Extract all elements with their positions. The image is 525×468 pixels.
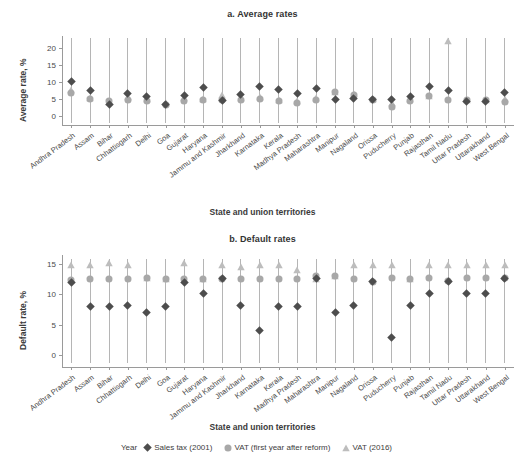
x-axis-spine [62, 367, 514, 368]
panel-b-plot-area: 051015Andhra PradeshAssamBiharChhattisga… [62, 255, 514, 367]
category-stem [90, 38, 91, 123]
data-point-vat_first [86, 275, 94, 283]
data-point-sales_tax [368, 277, 377, 286]
data-point-sales_tax [387, 95, 396, 104]
data-point-sales_tax [500, 274, 509, 283]
legend-item-sales-tax[interactable]: Sales tax (2001) [143, 443, 212, 452]
data-point-vat_first [482, 274, 490, 282]
y-tick-label: 15 [34, 260, 56, 269]
y-tick-label: 0 [34, 350, 56, 359]
x-tick-mark [260, 367, 261, 370]
data-point-sales_tax [274, 85, 283, 94]
x-tick-mark [505, 125, 506, 128]
x-tick-mark [222, 125, 223, 128]
panel-b-y-axis-label: Default rate, % [18, 291, 28, 350]
data-point-vat_first [312, 96, 320, 104]
data-point-sales_tax [349, 94, 358, 103]
x-tick-mark [128, 125, 129, 128]
panel-a-plot-area: 05101520Andhra PradeshAssamBiharChhattis… [62, 36, 514, 125]
data-point-sales_tax [199, 83, 208, 92]
x-tick-mark [373, 125, 374, 128]
data-point-vat_first [406, 275, 414, 283]
data-point-vat_first [124, 275, 132, 283]
y-tick-label: 15 [34, 61, 56, 70]
data-point-sales_tax [406, 92, 415, 101]
x-tick-mark [486, 125, 487, 128]
legend-label-vat-2016: VAT (2016) [352, 443, 392, 452]
legend-item-vat-2016[interactable]: VAT (2016) [342, 443, 392, 452]
x-tick-mark [297, 367, 298, 370]
panel-default-rates: b. Default rates Default rate, % 051015A… [0, 228, 525, 468]
data-point-sales_tax [236, 301, 245, 310]
x-tick-mark [128, 367, 129, 370]
x-tick-mark [354, 367, 355, 370]
x-tick-mark [429, 367, 430, 370]
x-tick-mark [279, 367, 280, 370]
data-point-sales_tax [462, 97, 471, 106]
category-stem [372, 259, 373, 364]
data-point-sales_tax [199, 289, 208, 298]
data-point-sales_tax [255, 82, 264, 91]
x-tick-mark [147, 125, 148, 128]
data-point-vat_first [199, 275, 207, 283]
x-tick-mark [410, 367, 411, 370]
data-point-vat_2016 [369, 261, 377, 269]
x-tick-mark [109, 125, 110, 128]
data-point-sales_tax [142, 308, 151, 317]
category-stem [410, 38, 411, 123]
data-point-sales_tax [142, 92, 151, 101]
data-point-vat_2016 [482, 261, 490, 269]
data-point-sales_tax [368, 95, 377, 104]
category-stem [485, 38, 486, 123]
x-tick-mark [90, 125, 91, 128]
y-tick-mark [59, 355, 62, 356]
data-point-sales_tax [293, 89, 302, 98]
x-tick-mark [166, 125, 167, 128]
data-point-sales_tax [67, 278, 76, 287]
category-stem [222, 38, 223, 123]
x-tick-mark [354, 125, 355, 128]
data-point-vat_first [501, 98, 509, 106]
data-point-vat_2016 [463, 261, 471, 269]
circle-icon [224, 443, 234, 452]
data-point-vat_first [350, 275, 358, 283]
data-point-sales_tax [425, 289, 434, 298]
category-stem [146, 38, 147, 123]
x-tick-mark [316, 125, 317, 128]
y-axis-spine [62, 255, 63, 367]
data-point-vat_2016 [501, 261, 509, 269]
data-point-vat_2016 [350, 261, 358, 269]
category-stem [109, 38, 110, 123]
data-point-vat_2016 [444, 261, 452, 269]
data-point-vat_2016 [425, 261, 433, 269]
x-tick-mark [90, 367, 91, 370]
data-point-sales_tax [331, 95, 340, 104]
data-point-vat_first [425, 92, 433, 100]
x-tick-mark [410, 125, 411, 128]
data-point-vat_first [275, 275, 283, 283]
x-tick-mark [184, 367, 185, 370]
category-stem [240, 38, 241, 123]
x-tick-mark [184, 125, 185, 128]
data-point-vat_first [425, 274, 433, 282]
legend-label-vat-first: VAT (first year after reform) [234, 443, 330, 452]
diamond-icon [143, 443, 154, 452]
x-tick-mark [467, 367, 468, 370]
x-tick-mark [147, 367, 148, 370]
data-point-sales_tax [161, 302, 170, 311]
data-point-sales_tax [444, 277, 453, 286]
data-point-vat_first [199, 96, 207, 104]
data-point-vat_first [293, 275, 301, 283]
data-point-vat_first [162, 275, 170, 283]
triangle-icon [342, 443, 352, 452]
panel-b-title: b. Default rates [0, 234, 525, 244]
category-stem [466, 38, 467, 123]
data-point-sales_tax [481, 289, 490, 298]
y-tick-label: 20 [34, 43, 56, 52]
legend-item-vat-first[interactable]: VAT (first year after reform) [224, 443, 330, 452]
category-stem [259, 38, 260, 123]
x-tick-mark [241, 125, 242, 128]
legend-title: Year [121, 443, 137, 452]
data-point-sales_tax [349, 301, 358, 310]
category-stem [429, 38, 430, 123]
